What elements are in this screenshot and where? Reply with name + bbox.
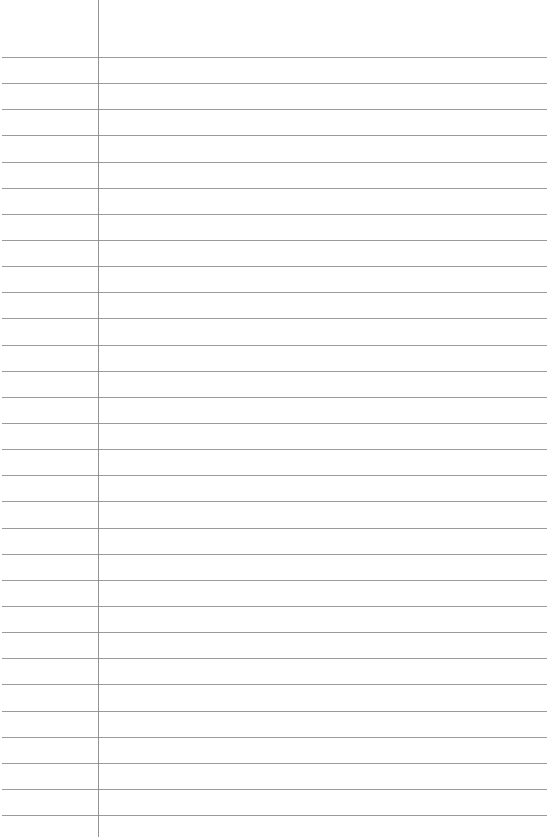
- ruled-line: [2, 397, 547, 398]
- ruled-line: [2, 83, 547, 84]
- lined-paper-page: [0, 0, 547, 839]
- ruled-line: [2, 57, 547, 58]
- ruled-line: [2, 345, 547, 346]
- ruled-line: [2, 763, 547, 764]
- ruled-line: [2, 789, 547, 790]
- ruled-line: [2, 449, 547, 450]
- ruled-line: [2, 318, 547, 319]
- ruled-line: [2, 606, 547, 607]
- ruled-line: [2, 240, 547, 241]
- ruled-line: [2, 475, 547, 476]
- ruled-line: [2, 501, 547, 502]
- ruled-line: [2, 632, 547, 633]
- ruled-line: [2, 815, 547, 816]
- ruled-line: [2, 711, 547, 712]
- ruled-line: [2, 135, 547, 136]
- ruled-line: [2, 214, 547, 215]
- ruled-line: [2, 737, 547, 738]
- ruled-line: [2, 423, 547, 424]
- ruled-line: [2, 188, 547, 189]
- ruled-line: [2, 684, 547, 685]
- ruled-line: [2, 266, 547, 267]
- ruled-line: [2, 109, 547, 110]
- ruled-line: [2, 162, 547, 163]
- ruled-line: [2, 292, 547, 293]
- ruled-line: [2, 528, 547, 529]
- ruled-line: [2, 554, 547, 555]
- ruled-line: [2, 580, 547, 581]
- ruled-line: [2, 371, 547, 372]
- ruled-line: [2, 658, 547, 659]
